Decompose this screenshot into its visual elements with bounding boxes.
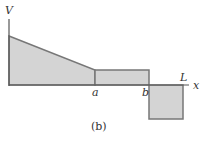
figure-caption: (b) bbox=[91, 120, 107, 133]
shear-diagram: V x a b L (b) bbox=[0, 0, 204, 148]
point-b-label: b bbox=[142, 86, 149, 99]
positive-shear-region-constant bbox=[95, 70, 149, 85]
negative-shear-region bbox=[149, 85, 183, 119]
v-axis-label: V bbox=[5, 4, 14, 17]
x-axis-label: x bbox=[193, 79, 200, 92]
point-L-label: L bbox=[179, 71, 187, 84]
positive-shear-region-sloped bbox=[9, 36, 95, 85]
point-a-label: a bbox=[92, 86, 99, 99]
